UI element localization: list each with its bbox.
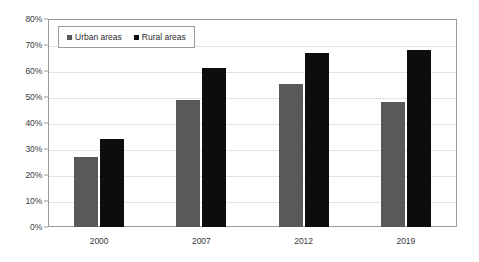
x-axis-tick-label-2000: 2000 — [90, 236, 109, 246]
bar-rural-2019[interactable] — [407, 50, 431, 227]
chart-legend: Urban areasRural areas — [58, 26, 195, 48]
x-axis: 2000200720122019 — [48, 232, 457, 256]
legend-label: Urban areas — [75, 32, 122, 42]
y-axis-tick-label: 80% — [26, 14, 42, 24]
legend-square-icon — [134, 35, 139, 40]
bars-layer — [48, 19, 457, 227]
x-axis-tick-label-2019: 2019 — [396, 236, 415, 246]
y-axis-tick-label: 40% — [26, 118, 42, 128]
legend-label: Rural areas — [142, 32, 186, 42]
y-axis-tick-label: 30% — [26, 144, 42, 154]
bar-rural-2000[interactable] — [100, 139, 124, 227]
y-axis-tick-label: 50% — [26, 92, 42, 102]
bar-urban-2007[interactable] — [176, 100, 200, 227]
y-axis-tick-label: 60% — [26, 66, 42, 76]
y-axis-tick-label: 20% — [26, 170, 42, 180]
y-axis: 80%70%60%50%40%30%20%10%0% — [0, 0, 48, 262]
bar-group — [48, 19, 150, 227]
bar-urban-2019[interactable] — [381, 102, 405, 227]
y-axis-tick-label: 10% — [26, 196, 42, 206]
bar-group — [253, 19, 355, 227]
y-axis-tick-label: 0% — [30, 222, 42, 232]
bar-group — [150, 19, 252, 227]
y-axis-tick-label: 70% — [26, 40, 42, 50]
legend-square-icon — [67, 35, 72, 40]
legend-item-urban[interactable]: Urban areas — [67, 32, 122, 42]
bar-urban-2000[interactable] — [74, 157, 98, 227]
legend-item-rural[interactable]: Rural areas — [134, 32, 186, 42]
x-axis-tick-label-2007: 2007 — [192, 236, 211, 246]
bar-chart: 80%70%60%50%40%30%20%10%0% 2000200720122… — [0, 0, 479, 262]
bar-rural-2012[interactable] — [305, 53, 329, 227]
bar-group — [355, 19, 457, 227]
bar-rural-2007[interactable] — [202, 68, 226, 227]
x-axis-tick-label-2012: 2012 — [294, 236, 313, 246]
bar-urban-2012[interactable] — [279, 84, 303, 227]
